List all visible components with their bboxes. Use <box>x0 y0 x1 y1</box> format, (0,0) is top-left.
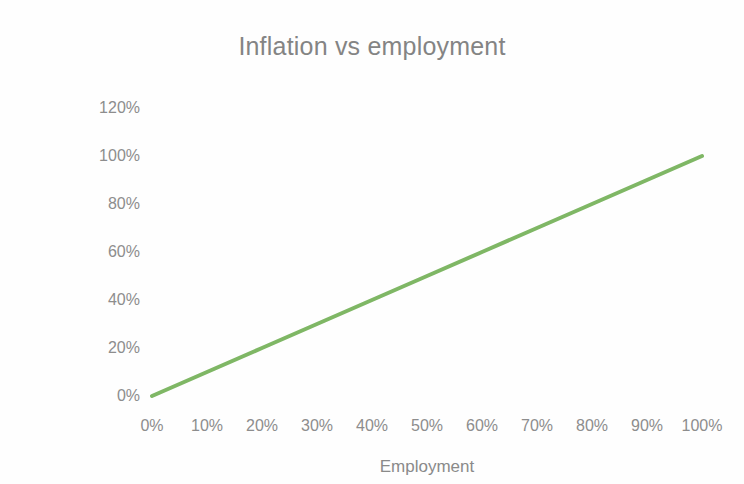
x-tick-label: 100% <box>672 417 732 435</box>
x-tick-label: 80% <box>562 417 622 435</box>
x-tick-label: 90% <box>617 417 677 435</box>
x-tick-label: 60% <box>452 417 512 435</box>
plot-area <box>152 108 702 396</box>
y-tick-label: 120% <box>70 99 140 117</box>
x-tick-label: 30% <box>287 417 347 435</box>
chart-figure: Inflation vs employment Inflation factor… <box>0 0 744 484</box>
series-line <box>152 156 702 396</box>
x-tick-label: 40% <box>342 417 402 435</box>
x-tick-label: 0% <box>122 417 182 435</box>
y-tick-label: 80% <box>70 195 140 213</box>
y-axis-tick-labels: 0%20%40%60%80%100%120% <box>68 108 140 396</box>
y-tick-label: 0% <box>70 387 140 405</box>
y-tick-label: 20% <box>70 339 140 357</box>
data-series-line <box>152 108 702 396</box>
x-tick-label: 70% <box>507 417 567 435</box>
x-tick-label: 50% <box>397 417 457 435</box>
y-tick-label: 40% <box>70 291 140 309</box>
x-tick-label: 10% <box>177 417 237 435</box>
x-axis-title: Employment <box>152 457 702 477</box>
chart-title: Inflation vs employment <box>0 32 744 61</box>
y-tick-label: 100% <box>70 147 140 165</box>
x-tick-label: 20% <box>232 417 292 435</box>
y-tick-label: 60% <box>70 243 140 261</box>
x-axis-tick-labels: 0%10%20%30%40%50%60%70%80%90%100% <box>152 417 702 441</box>
